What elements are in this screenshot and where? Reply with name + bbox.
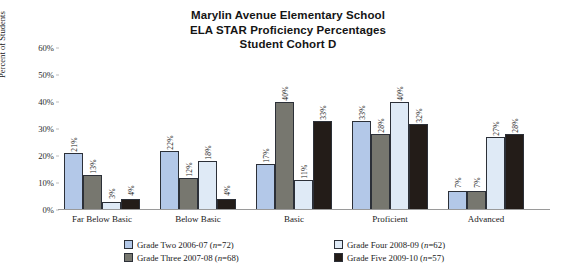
- bar[interactable]: [409, 124, 428, 210]
- bar-slot: 4%: [217, 48, 236, 210]
- bar-slot: 12%: [179, 48, 198, 210]
- legend-item[interactable]: Grade Two 2006-07 (n=72): [124, 238, 334, 251]
- bar-slot: 40%: [390, 48, 409, 210]
- bar-slot: 21%: [64, 48, 83, 210]
- bar-slot: 7%: [467, 48, 486, 210]
- bar[interactable]: [179, 178, 198, 210]
- bar[interactable]: [486, 137, 505, 210]
- legend-item[interactable]: Grade Four 2008-09 (n=62): [334, 238, 544, 251]
- chart-title: Marylin Avenue Elementary School ELA STA…: [0, 8, 576, 52]
- bar-value-label: 27%: [491, 121, 500, 136]
- x-axis-category-label: Advanced: [468, 214, 504, 224]
- bar[interactable]: [294, 180, 313, 210]
- bar-slot: 18%: [198, 48, 217, 210]
- bar-value-label: 7%: [472, 177, 481, 188]
- x-axis-category-label: Far Below Basic: [72, 214, 132, 224]
- x-axis-line: [58, 209, 550, 210]
- bar[interactable]: [64, 153, 83, 210]
- bar[interactable]: [390, 102, 409, 210]
- bar-group: 21%13%3%4%Far Below Basic: [64, 48, 140, 210]
- bar-group-bars: 21%13%3%4%: [64, 48, 140, 210]
- bar[interactable]: [505, 134, 524, 210]
- y-axis-tick-label: 60%: [20, 43, 54, 53]
- legend-item-label: Grade Two 2006-07 (n=72): [137, 240, 234, 250]
- legend-item[interactable]: Grade Three 2007-08 (n=68): [124, 251, 334, 264]
- legend-item-label: Grade Five 2009-10 (n=57): [347, 253, 444, 263]
- y-axis-tick-label: 10%: [20, 178, 54, 188]
- bar-slot: 3%: [102, 48, 121, 210]
- y-axis-ticks: 0%10%20%30%40%50%60%: [16, 48, 54, 210]
- bar[interactable]: [275, 102, 294, 210]
- bar-value-label: 4%: [222, 185, 231, 196]
- y-axis-tick-label: 0%: [20, 205, 54, 215]
- bar-value-label: 40%: [395, 86, 404, 101]
- bar-slot: 13%: [83, 48, 102, 210]
- bar-slot: 40%: [275, 48, 294, 210]
- bar-value-label: 12%: [184, 162, 193, 177]
- bar[interactable]: [256, 164, 275, 210]
- bar[interactable]: [198, 161, 217, 210]
- bar[interactable]: [160, 151, 179, 210]
- bar-slot: 33%: [313, 48, 332, 210]
- bar-value-label: 7%: [453, 177, 462, 188]
- bar[interactable]: [467, 191, 486, 210]
- legend-swatch-icon: [124, 253, 133, 262]
- bar-group-bars: 22%12%18%4%: [160, 48, 236, 210]
- bar-group-bars: 33%28%40%32%: [352, 48, 428, 210]
- bar[interactable]: [352, 121, 371, 210]
- legend-item-label: Grade Four 2008-09 (n=62): [347, 240, 445, 250]
- y-axis-title: Percent of Students: [0, 0, 7, 78]
- bar-value-label: 28%: [510, 119, 519, 134]
- bar-slot: 17%: [256, 48, 275, 210]
- bar-value-label: 4%: [126, 185, 135, 196]
- bar-slot: 22%: [160, 48, 179, 210]
- bar-group-bars: 17%40%11%33%: [256, 48, 332, 210]
- bar[interactable]: [448, 191, 467, 210]
- bar[interactable]: [371, 134, 390, 210]
- chart-title-line-1: Marylin Avenue Elementary School: [0, 8, 576, 23]
- bar-slot: 4%: [121, 48, 140, 210]
- bar-value-label: 32%: [414, 108, 423, 123]
- plot-area: 21%13%3%4%Far Below Basic22%12%18%4%Belo…: [58, 48, 550, 210]
- x-axis-category-label: Proficient: [372, 214, 408, 224]
- legend-swatch-icon: [334, 240, 343, 249]
- bar-slot: 32%: [409, 48, 428, 210]
- legend-swatch-icon: [124, 240, 133, 249]
- bar-value-label: 33%: [357, 105, 366, 120]
- bar-slot: 33%: [352, 48, 371, 210]
- bar-value-label: 28%: [376, 119, 385, 134]
- bar-slot: 11%: [294, 48, 313, 210]
- bar-value-label: 11%: [299, 165, 308, 179]
- legend-item[interactable]: Grade Five 2009-10 (n=57): [334, 251, 544, 264]
- bar-slot: 28%: [505, 48, 524, 210]
- legend-item-label: Grade Three 2007-08 (n=68): [137, 253, 239, 263]
- bar-group: 17%40%11%33%Basic: [256, 48, 332, 210]
- chart-legend: Grade Two 2006-07 (n=72)Grade Four 2008-…: [124, 238, 464, 264]
- x-axis-category-label: Below Basic: [175, 214, 221, 224]
- bar-group: 22%12%18%4%Below Basic: [160, 48, 236, 210]
- chart-title-line-2: ELA STAR Proficiency Percentages: [0, 23, 576, 38]
- x-axis-category-label: Basic: [284, 214, 304, 224]
- bar-value-label: 21%: [69, 138, 78, 153]
- y-axis-tick-label: 20%: [20, 151, 54, 161]
- bar-slot: 28%: [371, 48, 390, 210]
- y-axis-tick-label: 30%: [20, 124, 54, 134]
- bar-slot: 27%: [486, 48, 505, 210]
- bar-value-label: 22%: [165, 135, 174, 150]
- bar-value-label: 40%: [280, 86, 289, 101]
- bar-value-label: 33%: [318, 105, 327, 120]
- bar[interactable]: [83, 175, 102, 210]
- bar-group: 7%7%27%28%Advanced: [448, 48, 524, 210]
- bar-value-label: 13%: [88, 159, 97, 174]
- bar-value-label: 3%: [107, 188, 116, 199]
- bar-group: 33%28%40%32%Proficient: [352, 48, 428, 210]
- bar-slot: 7%: [448, 48, 467, 210]
- legend-swatch-icon: [334, 253, 343, 262]
- bar[interactable]: [313, 121, 332, 210]
- bar-group-bars: 7%7%27%28%: [448, 48, 524, 210]
- bar-value-label: 17%: [261, 148, 270, 163]
- y-axis-tick-label: 40%: [20, 97, 54, 107]
- bar-value-label: 18%: [203, 146, 212, 161]
- y-axis-tick-label: 50%: [20, 70, 54, 80]
